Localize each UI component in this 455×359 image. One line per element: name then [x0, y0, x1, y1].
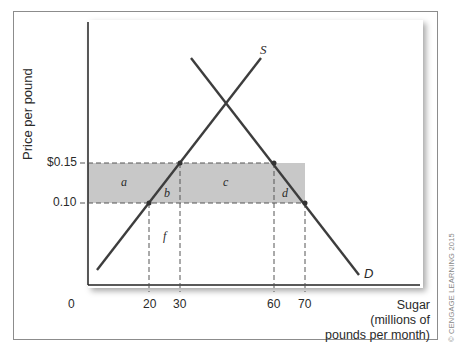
area-c-label: c [223, 175, 228, 190]
point-20-010 [147, 201, 152, 206]
x-tick-70: 70 [298, 297, 311, 311]
x-tick-30: 30 [173, 297, 186, 311]
supply-label: S [260, 42, 267, 58]
x-axis-title-line3: pounds per month) [325, 328, 430, 343]
copyright-credit: © CENGAGE LEARNING 2015 [447, 233, 455, 342]
area-a-label: a [121, 175, 127, 190]
y-tick-015: $0.15 [47, 155, 77, 169]
point-70-010 [303, 201, 308, 206]
y-axis-title: Price per pound [20, 68, 35, 160]
area-f-label: f [163, 229, 166, 244]
point-60-015 [272, 161, 277, 166]
x-tick-60: 60 [267, 297, 280, 311]
area-d-label: d [282, 186, 288, 201]
area-b-label: b [164, 186, 170, 201]
y-tick-010: 0.10 [53, 195, 76, 209]
x-axis-title: Sugar (millions of pounds per month) [325, 298, 430, 343]
point-30-015 [178, 161, 183, 166]
x-tick-0: 0 [68, 297, 75, 311]
x-axis-title-line2: (millions of [325, 313, 430, 328]
x-tick-20: 20 [143, 297, 156, 311]
demand-label: D [364, 266, 373, 281]
x-axis-title-line1: Sugar [325, 298, 430, 313]
